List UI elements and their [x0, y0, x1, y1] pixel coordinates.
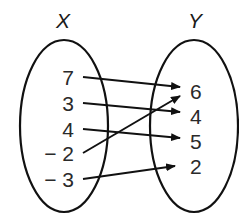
mapping-diagram: X Y 734− 2− 3 6452 [0, 0, 239, 223]
range-values: 6452 [190, 80, 202, 178]
domain-values: 734− 2− 3 [44, 66, 74, 191]
arrow-icon [83, 166, 175, 179]
mapping-arrows [83, 77, 180, 179]
domain-value: 3 [62, 92, 74, 115]
arrow-icon [83, 77, 180, 87]
domain-value: − 3 [44, 168, 74, 191]
domain-value: − 2 [44, 142, 74, 165]
domain-value: 4 [62, 118, 74, 141]
range-value: 2 [190, 155, 202, 178]
range-value: 6 [190, 80, 202, 103]
arrow-icon [83, 129, 180, 138]
range-label: Y [188, 9, 204, 32]
domain-label: X [55, 9, 71, 32]
range-value: 5 [190, 130, 202, 153]
range-value: 4 [190, 105, 202, 128]
domain-value: 7 [62, 66, 74, 89]
